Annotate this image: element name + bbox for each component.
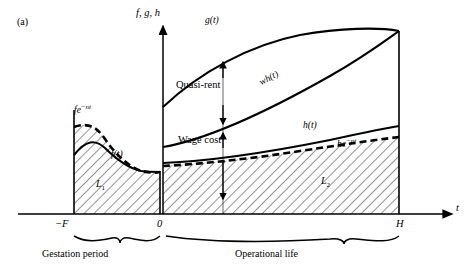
curve-label-fe-minus-nt: fe−nt <box>74 104 91 116</box>
curve-g-of-t <box>163 29 399 107</box>
x-tick-zero: 0 <box>157 219 162 230</box>
region-label-L1: L1 <box>96 179 105 192</box>
curve-label-f-of-t: f(t) <box>111 150 123 160</box>
figure-panel: (a) f, g, h t g(t) wh(t) h(t) he−nt f(t)… <box>0 0 474 269</box>
he-base: he <box>337 139 346 149</box>
operational-life-brace-shape <box>166 236 399 244</box>
curve-label-h-of-t: h(t) <box>303 121 317 131</box>
L2-sub: 2 <box>327 181 331 189</box>
curve-label-he-minus-nt: he−nt <box>337 138 356 150</box>
y-axis-label: f, g, h <box>136 8 160 19</box>
panel-tag: (a) <box>17 17 28 27</box>
L1-sub: 1 <box>102 184 106 192</box>
he-exponent: −nt <box>346 137 356 145</box>
region-label-L2: L2 <box>321 176 330 189</box>
area-L1-fill <box>74 125 160 214</box>
quasi-rent-label: Quasi-rent <box>176 80 220 91</box>
x-tick-H: H <box>396 219 404 230</box>
wage-cost-label: Wage cost <box>178 135 221 146</box>
fe-exponent: −nt <box>81 103 91 111</box>
curve-label-g-of-t: g(t) <box>205 16 219 26</box>
gestation-period-label: Gestation period <box>42 249 108 259</box>
gestation-period-brace-shape <box>74 236 160 243</box>
fe-base: fe <box>74 105 81 115</box>
operational-life-label: Operational life <box>235 249 298 259</box>
x-tick-minus-F: −F <box>55 219 69 230</box>
x-axis-label: t <box>456 203 459 214</box>
